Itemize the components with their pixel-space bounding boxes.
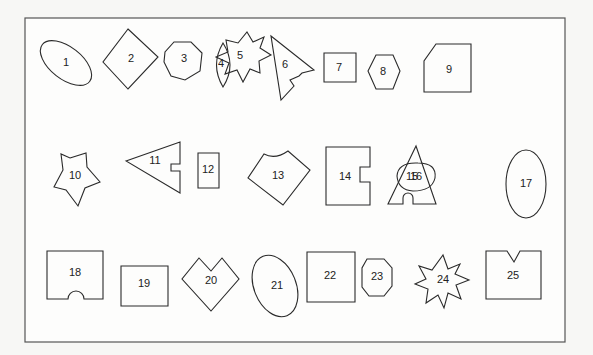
shape-number-label: 25	[507, 269, 519, 281]
shape-number-label: 11	[149, 154, 160, 166]
shape-number-label: 13	[272, 169, 284, 181]
shape-number-label: 10	[69, 169, 81, 181]
shape-number-label: 3	[181, 52, 187, 64]
shape-number-label: 9	[446, 63, 452, 75]
shape-number-label: 8	[380, 65, 386, 77]
shape-number-label: 2	[128, 52, 134, 64]
shape-number-label: 20	[205, 274, 217, 286]
shape-number-label: 23	[371, 270, 383, 282]
shape-number-label: 6	[282, 58, 288, 70]
shape-number-label: 19	[138, 277, 150, 289]
shape-number-label: 24	[437, 273, 449, 285]
shape-number-label: 14	[339, 170, 351, 182]
shape-number-label: 5	[237, 49, 243, 61]
shape-number-label: 7	[336, 61, 342, 73]
shapes-figure: 1234567891011121314151617181920212223242…	[0, 0, 593, 355]
figure-frame	[25, 18, 565, 342]
shape-number-label: 1	[63, 56, 69, 68]
shape-number-label: 17	[520, 177, 532, 189]
shape-number-label: 22	[324, 269, 336, 281]
shape-number-label: 21	[271, 279, 283, 291]
shape-number-label: 18	[69, 266, 81, 278]
shape-number-label: 12	[202, 163, 214, 175]
shape-number-label: 16	[410, 170, 422, 182]
